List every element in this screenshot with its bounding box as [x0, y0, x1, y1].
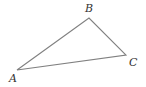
vertex-label-c: C: [129, 56, 138, 69]
triangle-diagram: A B C: [0, 0, 146, 87]
triangle-abc: [17, 18, 126, 70]
vertex-label-b: B: [84, 2, 93, 15]
vertex-label-a: A: [8, 72, 17, 85]
